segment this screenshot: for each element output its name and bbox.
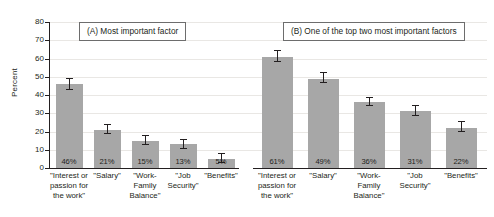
bar-group: 22% [446,22,477,168]
error-bar-cap-lower [366,105,373,106]
error-bar-cap-upper [142,135,149,136]
error-bar-cap-lower [104,133,111,134]
y-tick-mark [45,59,49,60]
bar-value-label: 36% [354,158,385,166]
x-tick-label: "Benefits" [196,171,246,181]
y-tick-label: 80 [22,18,44,26]
bar-group: 15% [132,22,159,168]
bar-value-label: 15% [132,158,159,166]
y-tick-mark [45,22,49,23]
y-tick-mark [45,40,49,41]
error-bar-cap-upper [366,97,373,98]
error-bar-cap-lower [458,131,465,132]
y-tick-label: 60 [22,55,44,63]
error-bar-cap-upper [274,50,281,51]
error-bar-cap-upper [320,72,327,73]
bar-group: 49% [308,22,339,168]
y-tick-mark [45,132,49,133]
bar [308,79,339,168]
error-bar-cap-lower [320,82,327,83]
bar-value-label: 61% [262,158,293,166]
y-tick-label: 10 [22,146,44,154]
y-tick-mark [45,95,49,96]
y-axis-tick-labels: 80706050403020100 [22,0,44,217]
error-bar-cap-lower [274,61,281,62]
y-tick-label: 0 [22,164,44,172]
bar [56,84,83,168]
bar-value-label: 49% [308,158,339,166]
error-bar-cap-upper [180,139,187,140]
y-tick-label: 70 [22,36,44,44]
error-bar-cap-lower [218,162,225,163]
y-tick-label: 30 [22,109,44,117]
x-axis-line-panel-a [49,168,239,169]
error-bar-cap-upper [412,105,419,106]
bar-group: 61% [262,22,293,168]
error-bar-cap-upper [218,153,225,154]
error-bar-cap-upper [66,78,73,79]
bar-value-label: 46% [56,158,83,166]
error-bar-cap-lower [142,144,149,145]
bar-group: 5% [208,22,235,168]
bar-group: 36% [354,22,385,168]
y-tick-mark [45,168,49,169]
y-axis-title: Percent [10,43,19,123]
error-bar-cap-upper [104,124,111,125]
y-tick-mark [45,77,49,78]
bar-value-label: 13% [170,158,197,166]
y-tick-label: 50 [22,73,44,81]
bar-value-label: 21% [94,158,121,166]
bar-group: 31% [400,22,431,168]
y-tick-mark [45,150,49,151]
x-axis-line-panel-b [253,168,487,169]
error-bar-cap-lower [180,148,187,149]
error-bar-cap-lower [412,115,419,116]
bar-group: 21% [94,22,121,168]
y-tick-label: 40 [22,91,44,99]
y-tick-mark [45,113,49,114]
x-tick-label: "Benefits" [432,171,490,181]
bar [262,57,293,168]
error-bar-cap-lower [66,89,73,90]
chart-figure: Percent 80706050403020100 (A) Most impor… [0,0,494,217]
bar-group: 13% [170,22,197,168]
error-bar-cap-upper [458,121,465,122]
bar-value-label: 31% [400,158,431,166]
y-tick-label: 20 [22,128,44,136]
bar-value-label: 22% [446,158,477,166]
bar-group: 46% [56,22,83,168]
